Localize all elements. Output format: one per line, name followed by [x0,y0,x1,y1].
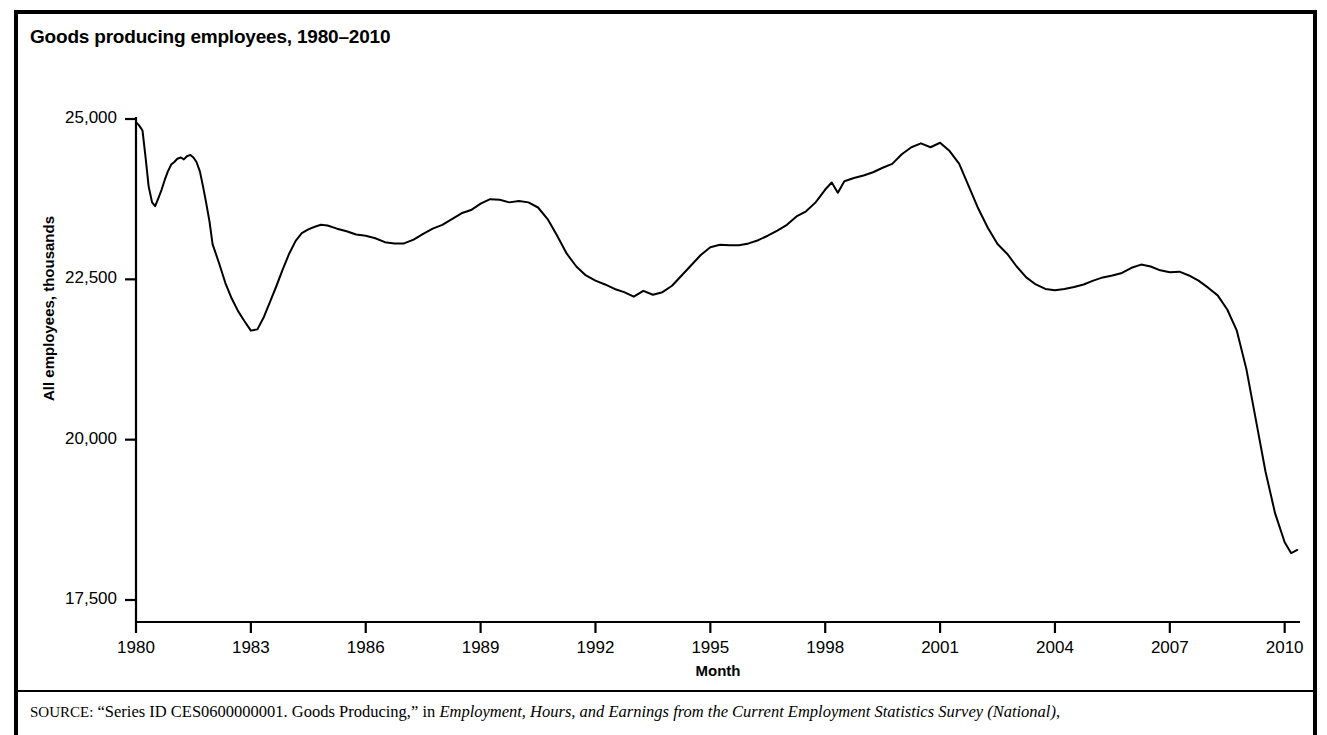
x-axis-tick-label: 1998 [785,638,865,658]
y-axis-tick-label: 25,000 [27,108,117,128]
x-axis-tick-label: 2007 [1130,638,1210,658]
x-axis-tick-label: 2010 [1245,638,1325,658]
x-axis-tick-label: 2001 [900,638,980,658]
x-axis-tick-label: 1992 [555,638,635,658]
y-axis-tick-label: 22,500 [27,268,117,288]
source-text-part2: , [1056,702,1060,721]
source-label: SOURCE: [30,704,93,720]
x-axis-tick-label: 1980 [96,638,176,658]
source-publication-title: Employment, Hours, and Earnings from the… [439,702,1056,721]
x-axis-tick-label: 1986 [326,638,406,658]
line-chart-svg [0,0,1327,700]
data-series-line [136,122,1297,553]
source-text-part1: “Series ID CES0600000001. Goods Producin… [93,702,439,721]
source-note: SOURCE: “Series ID CES0600000001. Goods … [30,702,1310,722]
plot-area: All employees, thousands Month 17,50020,… [0,0,1327,700]
figure-container: Goods producing employees, 1980–2010 All… [0,0,1327,735]
x-axis-tick-label: 1983 [211,638,291,658]
y-axis-tick-label: 20,000 [27,429,117,449]
x-axis-tick-label: 1995 [670,638,750,658]
x-axis-tick-label: 1989 [441,638,521,658]
y-axis-tick-label: 17,500 [27,589,117,609]
x-axis-tick-label: 2004 [1015,638,1095,658]
